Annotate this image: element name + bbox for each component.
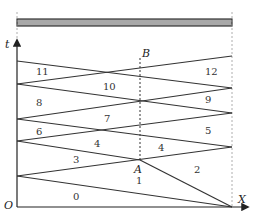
- region-label-2: 2: [194, 164, 200, 175]
- region-label-12: 12: [205, 66, 218, 77]
- region-label-5: 5: [205, 125, 211, 136]
- x-axis-label: X: [237, 193, 247, 206]
- origin-label: O: [4, 199, 13, 212]
- region-label-7: 7: [104, 113, 110, 124]
- region-label-10: 10: [103, 81, 116, 92]
- region-label-1: 1: [136, 175, 142, 186]
- region-label-6: 6: [36, 126, 42, 137]
- region-label-9: 9: [205, 94, 211, 105]
- wave-lines: [17, 56, 232, 207]
- region-label-4a: 4: [94, 138, 100, 149]
- region-label-3: 3: [73, 154, 79, 165]
- wave-diagram: t X O B A 0 1 2 3 4 4 5 6 7 8 9 10 11 12: [0, 0, 257, 217]
- t-axis-label: t: [5, 38, 10, 51]
- rod-bar: [17, 19, 232, 26]
- point-b-label: B: [141, 47, 150, 60]
- region-label-4b: 4: [158, 142, 164, 153]
- region-label-11: 11: [36, 66, 49, 77]
- region-label-0: 0: [73, 191, 79, 202]
- region-label-8: 8: [36, 97, 42, 108]
